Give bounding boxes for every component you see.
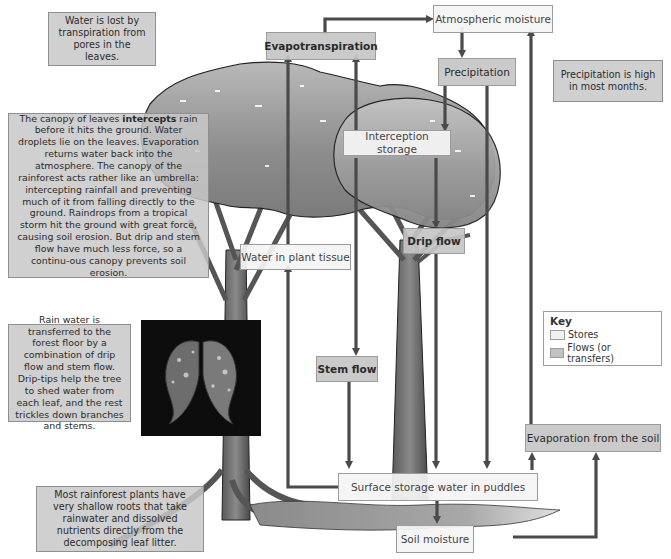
note-text: Water is lost by transpiration from pore…	[55, 15, 149, 63]
flow-evaporation-from-soil: Evaporation from the soil	[525, 424, 661, 452]
flow-precipitation: Precipitation	[438, 58, 516, 86]
leaf-photo	[141, 320, 261, 436]
note-text: Precipitation is high in most months.	[560, 69, 656, 93]
store-soil-moisture: Soil moisture	[396, 525, 474, 553]
store-water-in-plant-tissue: Water in plant tissue	[240, 244, 351, 270]
wet-leaves-image	[141, 320, 261, 436]
note-transpiration: Water is lost by transpiration from pore…	[48, 12, 156, 66]
store-atmospheric-moisture: Atmospheric moisture	[433, 5, 553, 33]
store-interception-storage: Interception storage	[343, 130, 451, 156]
legend-title: Key	[550, 315, 655, 327]
note-precipitation-high: Precipitation is high in most months.	[553, 60, 663, 102]
legend-item-stores: Stores	[550, 329, 655, 340]
flow-swatch-icon	[550, 348, 564, 358]
flow-stem-flow: Stem flow	[316, 356, 378, 382]
emphasis-intercepts: intercepts	[122, 113, 176, 124]
legend-item-flows: Flows (or transfers)	[550, 342, 655, 364]
note-rain-transfer: Rain water is transferred to the forest …	[8, 324, 131, 422]
store-surface-storage: Surface storage water in puddles	[338, 473, 538, 501]
flow-drip-flow: Drip flow	[403, 228, 465, 254]
note-text: The canopy of leaves intercepts rain bef…	[15, 113, 202, 279]
note-text: Rain water is transferred to the forest …	[15, 314, 124, 432]
note-shallow-roots: Most rainforest plants have very shallow…	[36, 486, 204, 552]
note-text: Most rainforest plants have very shallow…	[43, 489, 197, 549]
note-canopy-interception: The canopy of leaves intercepts rain bef…	[8, 113, 209, 278]
legend-key: Key Stores Flows (or transfers)	[543, 311, 662, 366]
flow-evapotranspiration: Evapotranspiration	[266, 32, 376, 60]
store-swatch-icon	[550, 330, 565, 340]
